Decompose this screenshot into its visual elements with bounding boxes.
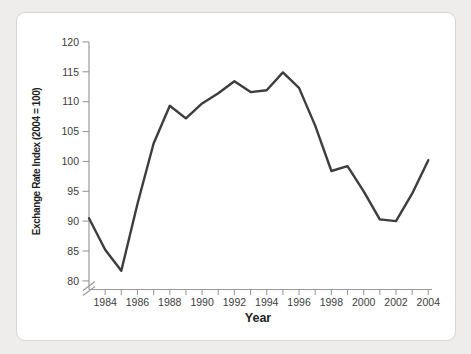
chart-generated-layer: 8085909510010511011512019841986198819901… bbox=[61, 36, 440, 308]
y-axis-title: Exchange Rate Index (2004 = 100) bbox=[31, 88, 42, 236]
y-tick-label: 105 bbox=[61, 125, 79, 137]
x-tick-label: 1988 bbox=[158, 296, 182, 308]
screenshot-background: 8085909510010511011512019841986198819901… bbox=[0, 0, 471, 354]
x-tick-label: 1998 bbox=[320, 296, 344, 308]
y-tick-label: 85 bbox=[67, 245, 79, 257]
y-tick-label: 115 bbox=[62, 66, 79, 78]
y-tick-label: 80 bbox=[67, 275, 79, 287]
x-tick-label: 2004 bbox=[417, 296, 441, 308]
y-tick-label: 110 bbox=[62, 95, 79, 107]
exchange-rate-chart: 8085909510010511011512019841986198819901… bbox=[0, 0, 471, 354]
x-tick-label: 1990 bbox=[190, 296, 214, 308]
x-tick-label: 2000 bbox=[352, 296, 376, 308]
x-tick-label: 1986 bbox=[126, 296, 150, 308]
y-tick-label: 100 bbox=[61, 155, 79, 167]
y-tick-label: 95 bbox=[67, 185, 79, 197]
x-tick-label: 1994 bbox=[255, 296, 279, 308]
x-tick-label: 1992 bbox=[223, 296, 247, 308]
exchange-rate-line bbox=[89, 72, 428, 270]
x-axis-title: Year bbox=[245, 311, 272, 325]
y-tick-label: 120 bbox=[61, 36, 79, 48]
x-tick-label: 1984 bbox=[93, 296, 117, 308]
y-tick-label: 90 bbox=[67, 215, 79, 227]
x-tick-label: 2002 bbox=[384, 296, 408, 308]
x-tick-label: 1996 bbox=[287, 296, 311, 308]
